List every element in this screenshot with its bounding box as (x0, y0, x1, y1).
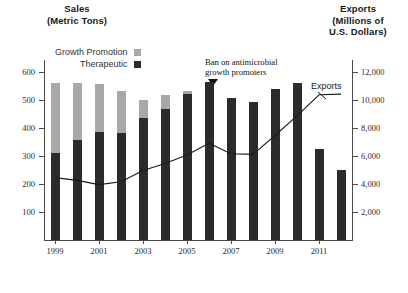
bar-stack (161, 56, 170, 240)
bar-stack (183, 56, 192, 240)
bar-stack (249, 56, 258, 240)
bar-stack (337, 56, 346, 240)
left-axis-tick-label: 300 (7, 151, 35, 161)
legend-swatch-growth-promotion (134, 49, 141, 56)
x-axis-tick (231, 240, 232, 244)
x-axis-tick-label: 2001 (79, 246, 119, 256)
chart-root: Sales (Metric Tons) Exports (Millions of… (0, 0, 408, 293)
right-axis-tick-label: 4,000 (361, 179, 401, 189)
left-axis-title: Sales (Metric Tons) (22, 3, 132, 26)
left-axis-tick (39, 128, 44, 129)
right-axis-tick (353, 156, 358, 157)
bar-stack (293, 56, 302, 240)
bar-segment-growth-promotion (117, 91, 126, 134)
x-axis-tick-label: 1999 (35, 246, 75, 256)
bar-segment-therapeutic (227, 98, 236, 240)
bar-stack (139, 56, 148, 240)
bar-segment-therapeutic (271, 89, 280, 241)
bar-segment-therapeutic (315, 149, 324, 240)
right-axis-tick-label: 6,000 (361, 151, 401, 161)
bar-segment-therapeutic (337, 170, 346, 240)
bar-segment-therapeutic (95, 132, 104, 240)
left-axis-tick (39, 100, 44, 101)
bar-stack (271, 56, 280, 240)
x-axis-tick-label: 2005 (167, 246, 207, 256)
right-axis-tick (353, 128, 358, 129)
bar-stack (227, 56, 236, 240)
bar-segment-growth-promotion (183, 91, 192, 94)
left-axis-tick (39, 72, 44, 73)
right-axis-title: Exports (Millions of U.S. Dollars) (312, 3, 404, 38)
left-axis-tick-label: 500 (7, 95, 35, 105)
bar-segment-therapeutic (249, 102, 258, 240)
bar-segment-therapeutic (117, 133, 126, 240)
bar-segment-therapeutic (293, 83, 302, 240)
bar-segment-growth-promotion (73, 83, 82, 139)
bar-stack (205, 56, 214, 240)
bar-segment-growth-promotion (95, 84, 104, 132)
left-axis-tick-label: 600 (7, 67, 35, 77)
right-axis-tick (353, 184, 358, 185)
bar-stack (117, 56, 126, 240)
right-axis-tick (353, 72, 358, 73)
bar-stack (315, 56, 324, 240)
left-axis-tick (39, 156, 44, 157)
right-axis-line (352, 60, 353, 240)
bar-stack (51, 56, 60, 240)
x-axis-tick-label: 2007 (211, 246, 251, 256)
bar-segment-therapeutic (73, 140, 82, 241)
x-axis-tick (187, 240, 188, 244)
x-axis-tick-label: 2003 (123, 246, 163, 256)
left-axis-tick-label: 200 (7, 179, 35, 189)
bar-segment-therapeutic (161, 109, 170, 240)
left-axis-line (44, 60, 45, 240)
x-axis-tick-label: 2009 (255, 246, 295, 256)
right-axis-tick (353, 212, 358, 213)
bar-segment-therapeutic (139, 118, 148, 240)
left-axis-tick-label: 400 (7, 123, 35, 133)
x-axis-line (44, 240, 353, 241)
right-axis-tick-label: 8,000 (361, 123, 401, 133)
right-axis-tick-label: 10,000 (361, 95, 401, 105)
bar-stack (95, 56, 104, 240)
x-axis-tick (99, 240, 100, 244)
bar-segment-therapeutic (183, 94, 192, 240)
x-axis-tick (319, 240, 320, 244)
x-axis-tick-label: 2011 (299, 246, 339, 256)
left-axis-tick-label: 100 (7, 207, 35, 217)
right-axis-tick (353, 100, 358, 101)
right-axis-tick-label: 2,000 (361, 207, 401, 217)
bar-segment-therapeutic (205, 82, 214, 240)
left-axis-tick (39, 184, 44, 185)
bar-segment-growth-promotion (161, 95, 170, 109)
bar-stack (73, 56, 82, 240)
x-axis-tick (143, 240, 144, 244)
x-axis-tick (55, 240, 56, 244)
bar-segment-growth-promotion (139, 100, 148, 118)
right-axis-tick-label: 12,000 (361, 67, 401, 77)
bar-segment-therapeutic (51, 153, 60, 240)
left-axis-tick (39, 212, 44, 213)
x-axis-tick (275, 240, 276, 244)
bar-segment-growth-promotion (51, 83, 60, 153)
